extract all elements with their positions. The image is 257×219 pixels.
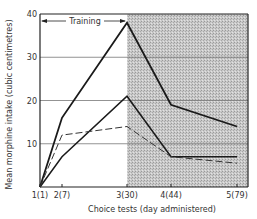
training-label: Training [68,17,101,26]
y-tick-label: 30 [27,53,37,62]
morphine-intake-chart: Training 102030401(1)2(7)3(30)4(44)5(79)… [0,0,257,219]
x-tick-label: 5(79) [226,191,248,200]
arrow-right-icon [120,19,126,23]
x-tick-label: 4(44) [160,191,182,200]
training-annotation: Training [41,17,126,26]
x-axis-title: Choice tests (day administered) [88,205,216,214]
x-tick-label: 2(7) [54,191,70,200]
x-tick-label: 1(1) [32,191,48,200]
y-tick-label: 40 [27,10,37,19]
arrow-left-icon [41,19,47,23]
x-tick-label: 3(30) [116,191,138,200]
y-tick-label: 20 [27,97,37,106]
y-tick-label: 10 [27,140,37,149]
y-axis-title: Mean morphine intake (cubic centimetres) [5,19,14,189]
